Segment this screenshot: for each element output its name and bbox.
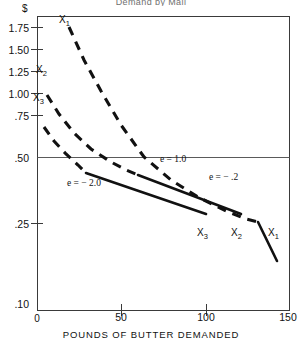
x-tick-label: 100 <box>186 311 226 323</box>
y-tick-label: 1.75 <box>0 22 29 34</box>
curve-label-sub: 3 <box>40 97 44 106</box>
curve-label-base: X <box>268 227 275 238</box>
curve-end-label-x2: X2 <box>231 227 242 241</box>
demand-curve-chart: Demand by Mail $ <box>0 0 302 346</box>
y-tick-label: 1.25 <box>0 66 29 78</box>
y-tick-label: .25 <box>0 218 29 230</box>
curve-label-sub: 2 <box>43 69 47 78</box>
curve-label-sub: 1 <box>275 232 279 241</box>
curve-end-label-x1: X1 <box>268 227 279 241</box>
elasticity-label-x2: e = 1.0 <box>160 154 186 164</box>
elasticity-label-x1: e = − .2 <box>209 172 238 182</box>
curve-x2-dashed <box>47 95 138 175</box>
curve-label-base: X <box>33 92 40 103</box>
curve-start-label-x1: X1 <box>59 14 70 28</box>
curve-end-label-x3: X3 <box>197 227 208 241</box>
y-tick-label: 1.50 <box>0 44 29 56</box>
curve-label-base: X <box>36 64 43 75</box>
curve-start-label-x3: X3 <box>33 92 44 106</box>
y-tick-label: 1.00 <box>0 88 29 100</box>
x-tick-label: 150 <box>268 311 302 323</box>
x-origin-label: 0 <box>17 313 57 324</box>
curve-label-sub: 3 <box>204 232 208 241</box>
y-tick-label: .50 <box>0 152 29 164</box>
y-tick-label: .75 <box>0 110 29 122</box>
x-tick-label: 50 <box>101 311 141 323</box>
elasticity-label-x3: e = − 2.0 <box>67 178 101 188</box>
y-tick-label: .10 <box>0 298 29 310</box>
curve-x1-dashed <box>69 27 258 222</box>
curve-label-sub: 2 <box>238 232 242 241</box>
curve-start-label-x2: X2 <box>36 64 47 78</box>
curve-label-sub: 1 <box>66 19 70 28</box>
curve-label-base: X <box>59 14 66 25</box>
x-axis-title: POUNDS OF BUTTER DEMANDED <box>0 329 302 340</box>
curve-x3-dashed <box>44 127 86 173</box>
curve-label-base: X <box>197 227 204 238</box>
curve-label-base: X <box>231 227 238 238</box>
plot-area <box>0 0 302 346</box>
